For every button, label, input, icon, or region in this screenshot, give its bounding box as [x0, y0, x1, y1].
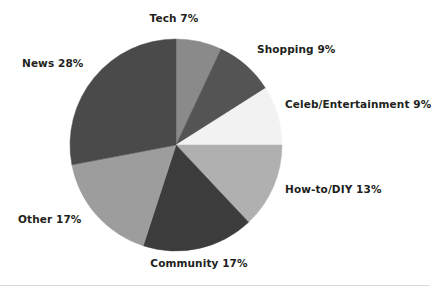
pie-label-tech: Tech 7% [150, 12, 199, 24]
pie-slice [70, 39, 176, 165]
pie-label-how-to-diy: How-to/DIY 13% [285, 183, 382, 195]
pie-label-celeb-entertainment: Celeb/Entertainment 9% [285, 98, 431, 110]
footer-divider [0, 285, 429, 286]
pie-slice-group [70, 39, 282, 251]
pie-label-community: Community 17% [150, 257, 247, 269]
pie-label-news: News 28% [22, 57, 83, 69]
pie-label-shopping: Shopping 9% [257, 43, 335, 55]
pie-label-other: Other 17% [18, 213, 81, 225]
